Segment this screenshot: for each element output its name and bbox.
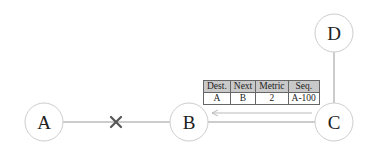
cell-dest: A xyxy=(204,93,231,105)
node-b[interactable]: B xyxy=(170,103,208,141)
route-table: Dest. Next Metric Seq. A B 2 A-100 xyxy=(203,80,320,105)
node-label: B xyxy=(183,112,196,133)
cell-metric: 2 xyxy=(256,93,288,105)
node-label: A xyxy=(37,112,51,133)
cell-next: B xyxy=(230,93,255,105)
route-table-header: Dest. Next Metric Seq. xyxy=(204,81,320,93)
node-label: C xyxy=(328,112,341,133)
cell-seq: A-100 xyxy=(288,93,319,105)
header-dest: Dest. xyxy=(204,81,231,93)
arrow-left-icon xyxy=(212,110,312,116)
header-metric: Metric xyxy=(256,81,288,93)
header-seq: Seq. xyxy=(288,81,319,93)
network-diagram: A B C D xyxy=(0,0,370,150)
header-next: Next xyxy=(230,81,255,93)
node-d[interactable]: D xyxy=(315,14,353,52)
table-row: A B 2 A-100 xyxy=(204,93,320,105)
node-label: D xyxy=(327,23,341,44)
node-a[interactable]: A xyxy=(25,103,63,141)
node-c[interactable]: C xyxy=(315,103,353,141)
